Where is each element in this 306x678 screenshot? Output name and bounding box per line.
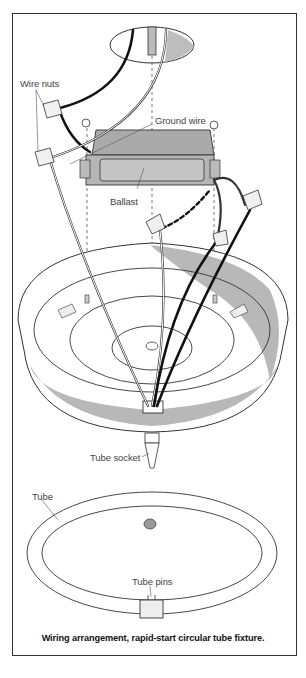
ballast [80,130,220,185]
label-tube-socket: Tube socket [90,452,140,463]
circular-tube [27,492,277,618]
label-ground-wire: Ground wire [155,115,206,126]
label-wire-nuts: Wire nuts [20,78,59,89]
label-tube: Tube [32,491,53,502]
screw-icon [210,121,218,129]
figure-caption: Wiring arrangement, rapid-start circular… [0,633,306,643]
screw-icon [82,119,90,127]
tube-socket-icon [145,433,159,468]
label-tube-pins: Tube pins [132,576,172,587]
label-ballast: Ballast [110,196,138,207]
